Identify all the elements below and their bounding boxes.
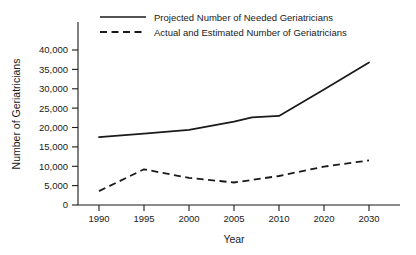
x-tick-label-2030: 2030 bbox=[358, 213, 379, 224]
y-tick-label-35000: 35,000 bbox=[39, 64, 68, 75]
y-tick-label-40000: 40,000 bbox=[39, 44, 68, 55]
x-tick-label-2020: 2020 bbox=[313, 213, 334, 224]
x-tick-label-2005: 2005 bbox=[223, 213, 244, 224]
y-tick-label-15000: 15,000 bbox=[39, 141, 68, 152]
x-axis-title: Year bbox=[223, 233, 245, 245]
y-tick-label-10000: 10,000 bbox=[39, 161, 68, 172]
y-tick-label-5000: 5,000 bbox=[44, 180, 68, 191]
y-tick-label-20000: 20,000 bbox=[39, 122, 68, 133]
x-tick-label-1990: 1990 bbox=[88, 213, 109, 224]
line-chart: Projected Number of Needed Geriatricians… bbox=[0, 0, 416, 255]
x-tick-label-2010: 2010 bbox=[268, 213, 289, 224]
series-line-projected bbox=[99, 62, 369, 137]
legend-label-projected: Projected Number of Needed Geriatricians bbox=[154, 12, 333, 23]
series-line-actual bbox=[99, 160, 369, 191]
x-axis-ticks: 1990 1995 2000 2005 2010 2020 2030 bbox=[88, 205, 379, 224]
legend-label-actual: Actual and Estimated Number of Geriatric… bbox=[154, 27, 347, 38]
y-tick-label-30000: 30,000 bbox=[39, 83, 68, 94]
x-tick-label-2000: 2000 bbox=[178, 213, 199, 224]
chart-legend: Projected Number of Needed Geriatricians… bbox=[100, 12, 347, 38]
y-axis-ticks: 0 5,000 10,000 15,000 20,000 25,000 30,0… bbox=[39, 44, 78, 210]
x-tick-label-1995: 1995 bbox=[133, 213, 154, 224]
y-tick-label-0: 0 bbox=[63, 199, 68, 210]
y-tick-label-25000: 25,000 bbox=[39, 103, 68, 114]
y-axis-title: Number of Geriatricians bbox=[10, 59, 22, 170]
chart-container: Projected Number of Needed Geriatricians… bbox=[0, 0, 416, 255]
